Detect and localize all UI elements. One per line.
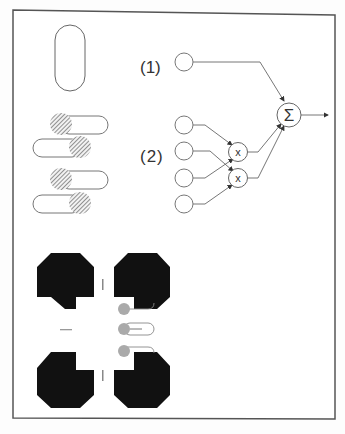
hatched-capsule-1 [50,113,108,135]
label-group-2: (2) [140,147,164,166]
figure-diagram: (1) (2) x x Σ [0,0,345,434]
sum-node: Σ [277,103,301,127]
gap-bar-left [60,329,72,330]
label-group-1: (1) [140,58,161,77]
svg-text:x: x [235,172,241,184]
input-node-2c [175,169,193,187]
gap-bar-top [102,279,104,290]
svg-text:x: x [235,146,241,158]
hatched-capsule-4 [33,192,91,214]
multiply-node-1: x [229,143,248,162]
svg-text:Σ: Σ [284,106,295,125]
input-node-2a [175,116,193,134]
hatched-capsule-3 [50,168,108,190]
input-node-2d [175,195,193,213]
input-node-1 [175,53,193,71]
gap-bar-bottom [102,370,104,381]
hatched-capsule-2 [33,136,91,158]
input-node-2b [175,142,193,160]
multiply-node-2: x [229,169,248,188]
grey-dot-capsule-2 [118,323,154,335]
